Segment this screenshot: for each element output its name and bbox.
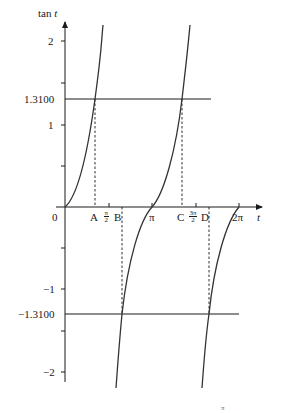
curve-branch-3 xyxy=(202,207,239,388)
y-tick-label-neg1: −1 xyxy=(43,284,55,295)
y-axis-label: tan t xyxy=(38,8,57,19)
point-label-D: D xyxy=(201,212,209,223)
origin-label: 0 xyxy=(52,212,58,223)
point-label-C: C xyxy=(177,212,184,223)
x-ticks xyxy=(109,203,239,207)
x-axis-label: t xyxy=(257,212,260,223)
x-tick-label-2pi: 2π xyxy=(232,212,243,223)
y-tick-label-1: 1 xyxy=(48,120,54,131)
tan-graph xyxy=(0,0,283,413)
x-tick-label-half-pi: π2 xyxy=(104,210,109,223)
x-tick-label-pi: π xyxy=(149,212,155,223)
point-label-B: B xyxy=(114,212,121,223)
point-label-A: A xyxy=(90,212,98,223)
x-tick-label-three-half-pi: 3π2 xyxy=(189,210,197,223)
y-tick-label-1.3100: 1.3100 xyxy=(24,94,54,105)
curve-branch-1 xyxy=(65,25,103,207)
y-tick-label-neg2: −2 xyxy=(43,367,55,378)
footer-mark: π xyxy=(221,403,225,413)
y-tick-label-2: 2 xyxy=(48,36,54,47)
y-tick-label-neg1.3100: −1.3100 xyxy=(18,309,54,320)
